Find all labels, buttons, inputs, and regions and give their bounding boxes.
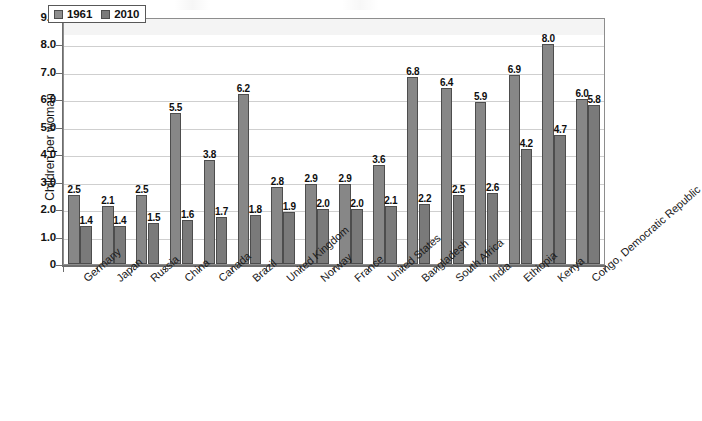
bar-value-label: 6.8 [402,66,423,77]
bar-value-label: 4.7 [550,124,571,135]
bar-1961-germany [68,195,80,264]
y-tick-mark [56,265,63,266]
bar-2010-kenya [554,135,566,264]
bar-1961-united-states [373,165,385,264]
y-tick-mark [56,210,63,211]
bar-2010-germany [80,226,92,264]
y-tick-label: 7.0 [22,66,56,78]
bar-value-label: 2.9 [301,173,322,184]
bar-value-label: 4.2 [516,138,537,149]
bar-value-label: 5.9 [470,91,491,102]
bar-1961-congo-democratic-republic [576,99,588,264]
x-tick-label: Congo, Democratic Republic [589,183,702,284]
bar-value-label: 3.6 [369,154,390,165]
bar-value-label: 8.0 [538,33,559,44]
gridline [64,46,604,47]
legend-item-1961[interactable]: 1961 [54,8,92,20]
y-tick-label: 4.0 [22,148,56,160]
y-tick-mark [56,155,63,156]
bar-value-label: 2.1 [381,195,402,206]
bar-value-label: 5.5 [165,102,186,113]
y-tick-mark [56,238,63,239]
bar-2010-china [182,220,194,264]
bar-value-label: 1.6 [177,209,198,220]
bar-value-label: 6.4 [436,77,457,88]
legend-swatch-1961-icon [54,10,63,19]
y-tick-label: 3.0 [22,176,56,188]
bar-value-label: 1.5 [143,212,164,223]
bar-2010-united-states [385,206,397,264]
bar-value-label: 2.6 [482,182,503,193]
bar-value-label: 2.9 [335,173,356,184]
bar-value-label: 2.5 [448,184,469,195]
legend-item-2010[interactable]: 2010 [101,8,139,20]
legend-label-2010: 2010 [114,8,139,20]
bar-value-label: 6.9 [504,64,525,75]
bar-1961-china [170,113,182,264]
bar-2010-congo-democratic-republic [588,105,600,264]
y-tick-mark [56,128,63,129]
y-axis-tick-labels: 9.08.07.06.05.04.03.02.01.00 [14,0,56,421]
y-tick-label: 2.0 [22,203,56,215]
plot-area: 2.51.42.11.42.51.55.51.63.81.76.21.82.81… [63,18,605,265]
legend-label-1961: 1961 [67,8,92,20]
bar-value-label: 2.0 [347,198,368,209]
bar-1961-united-kingdom [271,187,283,264]
bar-2010-ethiopia [521,149,533,264]
y-tick-label: 1.0 [22,231,56,243]
y-tick-mark [56,45,63,46]
bar-value-label: 2.5 [131,184,152,195]
bar-2010-france [351,209,363,264]
bar-1961-brazil [238,94,250,264]
y-tick-label: 5.0 [22,121,56,133]
y-tick-mark [56,100,63,101]
bar-value-label: 5.8 [584,94,605,105]
bar-value-label: 2.1 [98,195,119,206]
bar-value-label: 2.2 [414,193,435,204]
bar-2010-united-kingdom [283,212,295,264]
bar-2010-canada [216,217,228,264]
y-tick-mark [56,183,63,184]
legend: 1961 2010 [48,5,146,23]
bar-value-label: 1.8 [245,204,266,215]
gridline [64,129,604,130]
bar-value-label: 2.5 [64,184,85,195]
y-tick-label: 0 [22,258,56,270]
bar-value-label: 1.9 [279,201,300,212]
bar-value-label: 2.8 [267,176,288,187]
x-tick-mark [63,265,64,272]
bar-2010-russia [148,223,160,264]
gridline [64,101,604,102]
bar-value-label: 1.4 [110,215,131,226]
bar-1961-south-africa [441,88,453,264]
bar-1961-kenya [542,44,554,264]
y-tick-mark [56,73,63,74]
y-tick-label: 6.0 [22,93,56,105]
bar-1961-russia [136,195,148,264]
bar-value-label: 2.0 [313,198,334,209]
y-tick-label: 8.0 [22,38,56,50]
bar-value-label: 1.7 [211,206,232,217]
legend-swatch-2010-icon [101,10,110,19]
bar-1961-ethiopia [509,75,521,264]
bar-value-label: 3.8 [199,149,220,160]
bar-1961-bangladesh [407,77,419,264]
bar-value-label: 6.2 [233,83,254,94]
bar-value-label: 1.4 [76,215,97,226]
